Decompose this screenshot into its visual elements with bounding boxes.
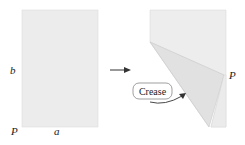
folded-sheet bbox=[150, 10, 226, 127]
label-p-right: P bbox=[228, 69, 236, 81]
crease-arrowhead-icon bbox=[179, 93, 186, 99]
unfolded-sheet bbox=[22, 10, 98, 127]
crease-callout: Crease bbox=[133, 83, 186, 103]
label-a: a bbox=[54, 125, 60, 137]
paper-fold-diagram: b P a P Crease bbox=[0, 0, 245, 145]
crease-label: Crease bbox=[139, 86, 167, 97]
label-b: b bbox=[10, 64, 16, 76]
transition-arrow bbox=[110, 67, 131, 73]
sheet-rectangle bbox=[22, 10, 98, 127]
label-p-left: P bbox=[10, 125, 18, 137]
